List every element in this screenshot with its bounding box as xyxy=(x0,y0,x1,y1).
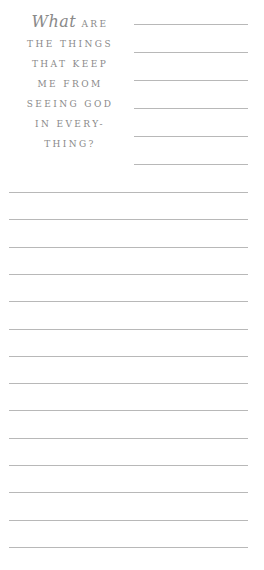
full-ruled-line xyxy=(9,383,248,384)
full-ruled-line xyxy=(9,301,248,302)
prompt-line-1: What ARE xyxy=(14,12,126,34)
prompt-line-6: IN EVERY- xyxy=(14,114,126,134)
prompt-line-2: THE THINGS xyxy=(14,34,126,54)
prompt-heading: What ARE THE THINGS THAT KEEP ME FROM SE… xyxy=(14,12,126,154)
full-ruled-line xyxy=(9,492,248,493)
full-ruled-line xyxy=(9,520,248,521)
full-ruled-line xyxy=(9,247,248,248)
short-ruled-line xyxy=(134,164,248,165)
full-ruled-line xyxy=(9,547,248,548)
full-ruled-line xyxy=(9,329,248,330)
full-ruled-line xyxy=(9,465,248,466)
full-ruled-line xyxy=(9,356,248,357)
short-ruled-line xyxy=(134,52,248,53)
full-ruled-line xyxy=(9,410,248,411)
short-ruled-line xyxy=(134,80,248,81)
short-ruled-line xyxy=(134,24,248,25)
full-ruled-line xyxy=(9,192,248,193)
prompt-line-4: ME FROM xyxy=(14,74,126,94)
prompt-script-word: What xyxy=(31,12,76,31)
prompt-line-3: THAT KEEP xyxy=(14,54,126,74)
short-ruled-line xyxy=(134,136,248,137)
short-ruled-line xyxy=(134,108,248,109)
prompt-line-7: THING? xyxy=(14,134,126,154)
prompt-line-5: SEEING GOD xyxy=(14,94,126,114)
full-ruled-line xyxy=(9,274,248,275)
full-ruled-line xyxy=(9,219,248,220)
full-ruled-line xyxy=(9,438,248,439)
